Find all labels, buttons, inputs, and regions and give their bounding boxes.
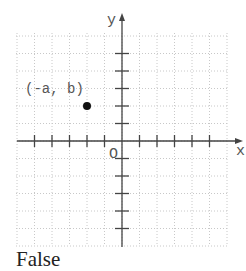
x-axis-label: x <box>236 143 245 160</box>
y-axis-arrow-icon <box>119 13 125 21</box>
coordinate-plane: x y O (-a, b) <box>0 0 246 250</box>
answer-text: False <box>16 248 60 270</box>
origin-label: O <box>109 146 118 163</box>
point-label: (-a, b) <box>25 81 84 97</box>
plotted-point <box>83 102 91 110</box>
axes <box>17 17 240 247</box>
y-axis-label: y <box>107 12 116 29</box>
